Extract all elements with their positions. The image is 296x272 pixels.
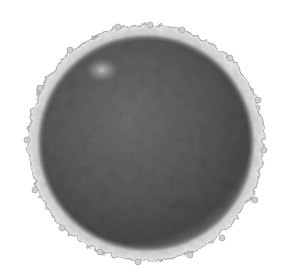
light-reflection	[86, 58, 118, 82]
cell-core	[40, 37, 252, 249]
cell-image	[0, 0, 296, 272]
micrograph: Grayscale micrograph of a round cell wit…	[0, 0, 296, 272]
